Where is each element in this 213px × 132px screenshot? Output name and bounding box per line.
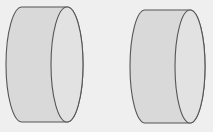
diagram-canvas [0,0,213,132]
cylinder-right-face [175,10,205,123]
cylinder-right [130,10,205,123]
cylinder-left [6,7,83,122]
cylinder-left-face [51,7,83,122]
